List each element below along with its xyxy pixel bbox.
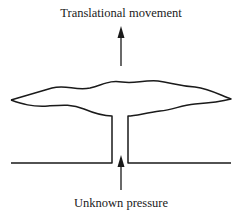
bottom-label: Unknown pressure — [0, 196, 242, 211]
membrane-outline — [11, 81, 231, 163]
arrow-up-top — [118, 26, 125, 66]
membrane-outline-left — [11, 100, 112, 163]
diaphragm-diagram — [0, 0, 242, 223]
arrow-up-bottom — [118, 155, 125, 190]
